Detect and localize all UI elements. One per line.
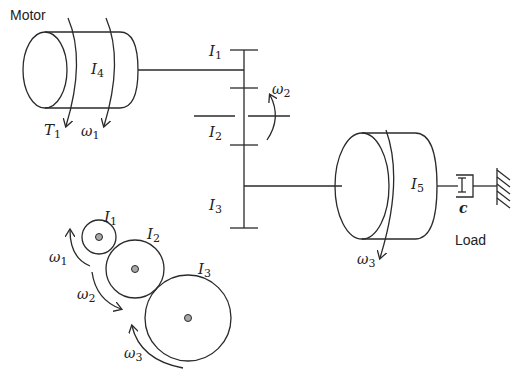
damper: [456, 175, 473, 197]
torque-label: T1: [44, 123, 61, 140]
gear1-label: I1: [209, 44, 222, 61]
omega1-motor-arrow: [104, 18, 115, 126]
ground-wall: [497, 168, 510, 208]
damper-label: c: [459, 201, 468, 215]
motor-label: Motor: [10, 8, 46, 22]
load-label: Load: [455, 233, 486, 247]
omega1-gear-arrow: [70, 230, 90, 266]
gear3-label: I3: [209, 198, 222, 215]
omega3-load-label: ω3: [357, 252, 375, 269]
omega2-gear-arrow: [92, 272, 121, 309]
load-inertia-label: I5: [411, 177, 424, 194]
omega2-shaft-arrow: [267, 95, 275, 140]
omega3-gear-label: ω3: [124, 346, 142, 363]
omega1-motor-label: ω1: [81, 124, 99, 141]
gear2-front-label: I2: [147, 227, 160, 244]
motor-inertia-cylinder: [23, 32, 138, 108]
diagram-canvas: [0, 0, 521, 384]
omega1-gear-label: ω1: [49, 250, 67, 267]
gear2-label: I2: [209, 125, 222, 142]
omega2-shaft-label: ω2: [272, 82, 290, 99]
gear3-front-label: I3: [198, 262, 211, 279]
motor-inertia-label: I4: [91, 62, 104, 79]
omega2-gear-label: ω2: [77, 287, 95, 304]
gear1-front-label: I1: [104, 210, 117, 227]
